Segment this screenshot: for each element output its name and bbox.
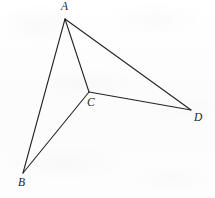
vertex-label-c: C xyxy=(87,97,95,109)
segment-ab xyxy=(23,19,65,173)
vertex-label-b: B xyxy=(18,177,25,189)
vertex-label-d: D xyxy=(194,112,202,124)
segment-ac xyxy=(65,19,89,92)
geometry-canvas xyxy=(0,0,215,198)
segment-cd xyxy=(89,92,191,110)
segment-bc xyxy=(23,92,89,173)
segment-ad xyxy=(65,19,191,110)
vertex-label-a: A xyxy=(61,1,68,13)
segment-layer xyxy=(23,19,191,173)
geometry-figure: ABCD xyxy=(0,0,215,198)
